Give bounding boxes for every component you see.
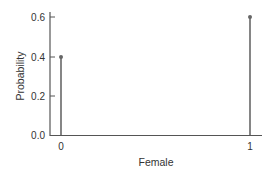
y-ticks: 0.6 0.4 0.2 0.0 [31, 12, 55, 142]
x-tick-label: 0 [58, 141, 64, 152]
x-tick-label: 1 [247, 141, 253, 152]
y-axis-label: Probability [14, 51, 26, 101]
stem-marker-1 [248, 15, 252, 19]
x-axis-label: Female [138, 156, 173, 168]
stem-series [59, 15, 252, 135]
y-tick-label: 0.6 [31, 12, 45, 23]
stem-chart: 0.6 0.4 0.2 0.0 0 1 Probability Female [0, 0, 270, 171]
y-tick-label: 0.4 [31, 52, 45, 63]
y-tick-label: 0.0 [31, 130, 45, 141]
y-tick-label: 0.2 [31, 91, 45, 102]
stem-marker-0 [59, 55, 63, 59]
x-ticks: 0 1 [58, 141, 253, 152]
